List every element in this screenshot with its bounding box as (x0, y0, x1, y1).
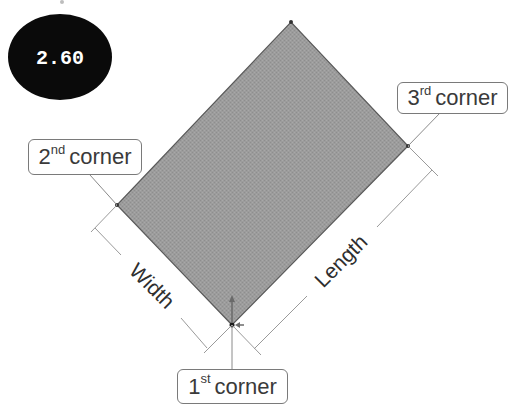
third-corner-suffix: rd (420, 84, 432, 97)
step-badge: 2.60 (8, 14, 112, 100)
first-corner-suffix: st (200, 372, 210, 385)
third-corner-callout: 3rdcorner (397, 82, 508, 114)
length-dimension-line-b (254, 296, 307, 349)
width-extension-line-top (91, 205, 117, 232)
first-corner-number: 1 (188, 376, 200, 398)
first-corner-word: corner (215, 376, 277, 398)
third-corner-leader (408, 113, 440, 146)
arrow-left-icon (235, 322, 240, 328)
second-corner-callout: 2ndcorner (28, 139, 142, 175)
length-dimension-line-a (377, 170, 432, 227)
badge-text: 2.60 (36, 47, 84, 70)
top-dot (60, 0, 64, 4)
top-corner-vertex (289, 20, 293, 24)
length-extension-line-top (408, 146, 438, 176)
second-corner-leader (90, 175, 117, 205)
second-corner-suffix: nd (51, 143, 65, 156)
third-corner-number: 3 (407, 87, 419, 109)
width-dimension-line-b (181, 318, 207, 348)
width-extension-line-bottom (204, 325, 232, 353)
width-dimension-line-a (95, 228, 121, 255)
diagram-svg: 2.60 (0, 0, 519, 416)
second-corner-word: corner (69, 146, 131, 168)
third-corner-word: corner (435, 87, 497, 109)
length-extension-line-bottom (232, 325, 261, 355)
first-corner-callout: 1stcorner (177, 369, 288, 404)
diagram-canvas: 2.60 Width Length (0, 0, 519, 416)
second-corner-number: 2 (38, 146, 50, 168)
